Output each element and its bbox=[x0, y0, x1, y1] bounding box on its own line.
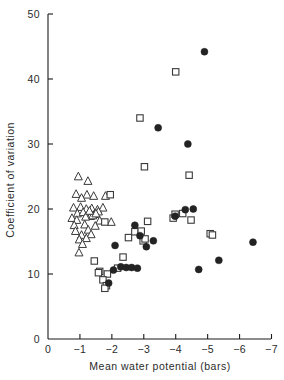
data-point-square bbox=[186, 172, 192, 178]
x-axis-title: Mean water potential (bars) bbox=[89, 360, 230, 372]
data-point-circle bbox=[190, 206, 197, 213]
x-tick-label: −5 bbox=[201, 343, 214, 355]
data-point-circle bbox=[134, 265, 141, 272]
data-point-circle bbox=[215, 257, 222, 264]
data-point-square bbox=[141, 164, 147, 170]
data-point-circle bbox=[112, 242, 119, 249]
data-point-square bbox=[209, 232, 215, 238]
y-tick-label: 0 bbox=[34, 333, 40, 345]
data-point-circle bbox=[249, 239, 256, 246]
x-tick-label: −1 bbox=[74, 343, 87, 355]
data-point-square bbox=[95, 270, 101, 276]
x-tick-label: 0 bbox=[45, 343, 51, 355]
data-point-circle bbox=[195, 266, 202, 273]
data-point-circle bbox=[201, 48, 208, 55]
data-point-square bbox=[120, 254, 126, 260]
x-tick-label: −7 bbox=[265, 343, 278, 355]
x-tick-label: −3 bbox=[137, 343, 150, 355]
data-point-circle bbox=[182, 206, 189, 213]
x-tick-label: −6 bbox=[233, 343, 246, 355]
y-tick-label: 10 bbox=[28, 268, 40, 280]
y-axis-title: Coefficient of variation bbox=[4, 122, 16, 238]
figure-background bbox=[0, 0, 284, 380]
data-point-square bbox=[102, 219, 108, 225]
data-point-square bbox=[173, 69, 179, 75]
data-point-circle bbox=[110, 267, 117, 274]
data-point-circle bbox=[184, 141, 191, 148]
data-point-square bbox=[144, 218, 150, 224]
y-tick-label: 40 bbox=[28, 73, 40, 85]
data-point-circle bbox=[155, 124, 162, 131]
x-tick-label: −2 bbox=[105, 343, 118, 355]
y-tick-label: 50 bbox=[28, 8, 40, 20]
data-point-square bbox=[188, 217, 194, 223]
data-point-circle bbox=[172, 213, 179, 220]
data-point-square bbox=[137, 115, 143, 121]
data-point-square bbox=[107, 192, 113, 198]
data-point-square bbox=[125, 234, 131, 240]
data-point-circle bbox=[105, 280, 112, 287]
y-tick-label: 30 bbox=[28, 138, 40, 150]
x-tick-label: −4 bbox=[169, 343, 182, 355]
y-tick-label: 20 bbox=[28, 203, 40, 215]
data-point-circle bbox=[136, 232, 143, 239]
data-point-square bbox=[91, 258, 97, 264]
data-point-circle bbox=[150, 237, 157, 244]
scatter-plot-figure: 01020304050 0−1−2−3−4−5−6−7 Mean water p… bbox=[0, 0, 284, 380]
data-point-circle bbox=[131, 222, 138, 229]
data-point-circle bbox=[143, 243, 150, 250]
